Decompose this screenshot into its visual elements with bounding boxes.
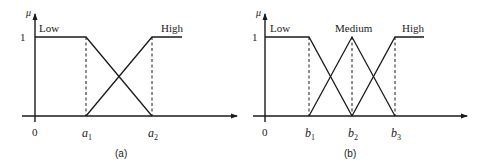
caption-a: (a) — [115, 148, 127, 159]
membership-high — [86, 37, 182, 116]
set-label-low: Low — [39, 22, 59, 34]
set-label-medium: Medium — [335, 22, 373, 34]
set-label-low: Low — [270, 22, 290, 34]
caption-b: (b) — [344, 148, 356, 159]
panel-b: μ 1 0 Low Medium High b1 b2 b3 (b) — [252, 7, 467, 159]
panel-a: μ 1 0 Low High a1 a2 (a) — [20, 7, 237, 159]
y-tick-label: 1 — [20, 31, 26, 43]
y-tick-label: 1 — [252, 31, 258, 43]
membership-low — [35, 37, 152, 116]
x-tick-b2: b2 — [348, 126, 358, 142]
origin-label: 0 — [262, 126, 268, 138]
fuzzy-membership-figure: μ 1 0 Low High a1 a2 (a) μ 1 0 Low Med — [0, 0, 484, 168]
y-axis-label: μ — [255, 7, 261, 18]
x-tick-a1: a1 — [82, 126, 92, 142]
origin-label: 0 — [32, 126, 38, 138]
x-tick-b3: b3 — [391, 126, 401, 142]
set-label-high: High — [402, 22, 425, 34]
y-axis-label: μ — [25, 7, 31, 18]
set-label-high: High — [161, 22, 184, 34]
x-tick-a2: a2 — [148, 126, 158, 142]
x-tick-b1: b1 — [305, 126, 315, 142]
